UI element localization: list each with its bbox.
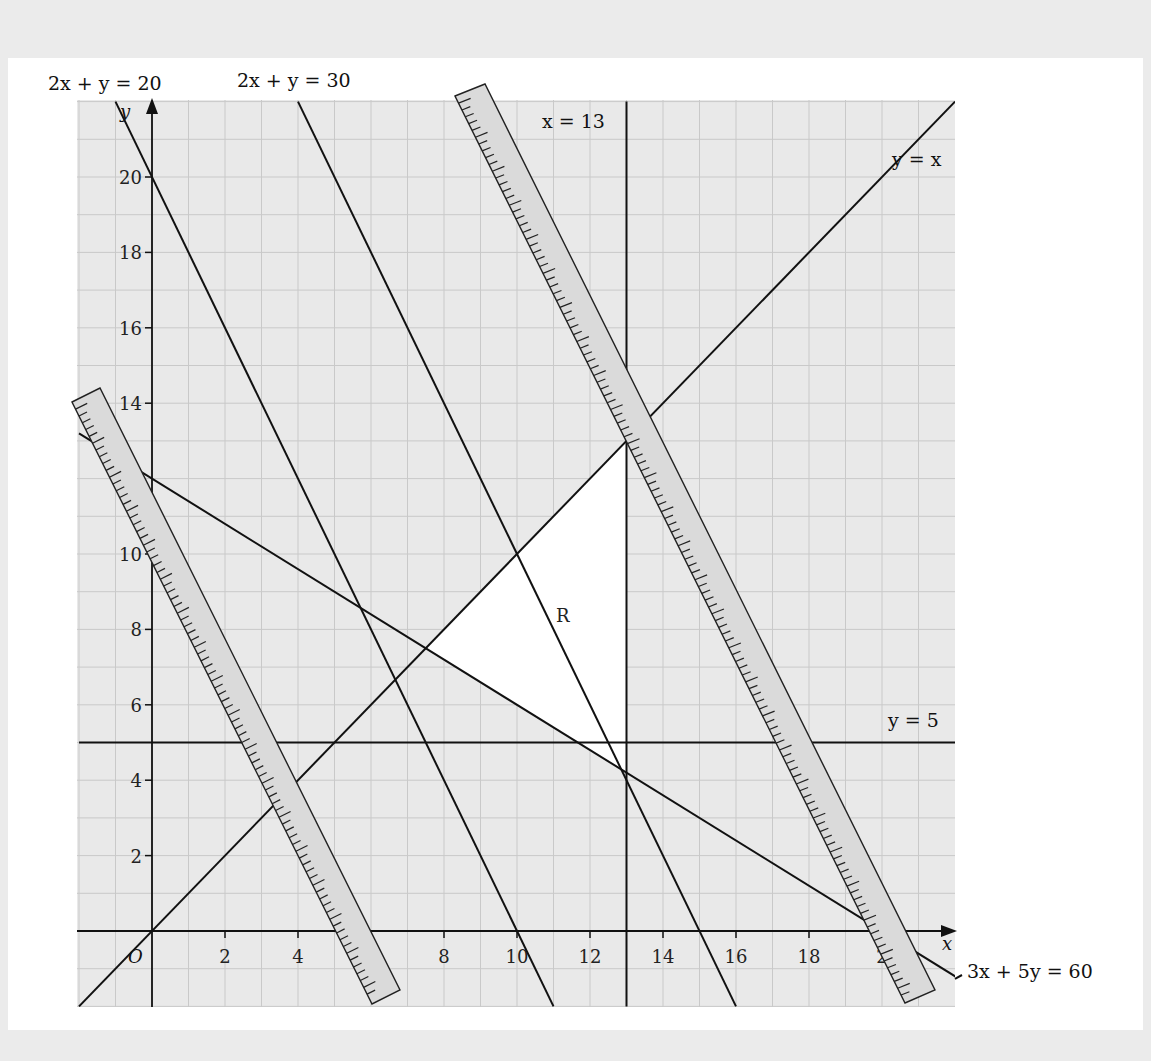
x-tick-label: 16: [725, 946, 748, 967]
y-axis-label: y: [119, 101, 131, 122]
x-tick-label: 18: [798, 946, 821, 967]
page: 2481012141618224681014161820 2x + y = 20…: [0, 0, 1151, 1061]
x-axis-label: x: [942, 933, 952, 954]
x-tick-label: 12: [579, 946, 602, 967]
origin-label: O: [128, 946, 143, 967]
x-tick-label: 4: [292, 946, 303, 967]
label-x-13: x = 13: [542, 110, 605, 132]
region-label: R: [556, 605, 570, 626]
y-tick-label: 6: [131, 695, 142, 716]
y-tick-label: 10: [119, 544, 142, 565]
x-tick-label: 14: [652, 946, 675, 967]
y-tick-label: 4: [131, 770, 142, 791]
label-3x-plus-5y-60: 3x + 5y = 60: [967, 960, 1093, 982]
y-tick-label: 2: [131, 846, 142, 867]
y-tick-label: 16: [119, 318, 142, 339]
x-tick-label: 8: [438, 946, 449, 967]
label-2x-plus-y-20: 2x + y = 20: [48, 72, 162, 94]
linear-programming-graph: 2481012141618224681014161820 2x + y = 20…: [0, 0, 1151, 1061]
line-3x-5y-60-extension: [955, 975, 962, 979]
y-tick-label: 8: [131, 619, 142, 640]
label-2x-plus-y-30: 2x + y = 30: [237, 69, 351, 91]
label-y-5: y = 5: [887, 709, 939, 731]
y-tick-label: 20: [119, 167, 142, 188]
y-tick-label: 14: [119, 393, 142, 414]
x-tick-label: 2: [219, 946, 230, 967]
y-tick-label: 18: [119, 242, 142, 263]
label-y-equals-x: y = x: [891, 148, 942, 170]
